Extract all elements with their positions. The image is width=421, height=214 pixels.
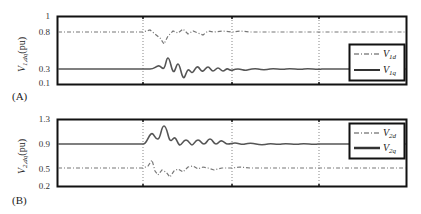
ytick-b-3: 0.5 bbox=[39, 164, 51, 174]
ytick-b-2: 0.9 bbox=[39, 139, 51, 149]
y-axis-label-b: V2,dq(pu) bbox=[16, 139, 29, 174]
ytick-a-2: 0.8 bbox=[39, 27, 51, 37]
legend-b: V2d V2q bbox=[350, 124, 405, 159]
legend-box-a bbox=[350, 45, 405, 81]
ytick-a-3: 0.3 bbox=[39, 64, 51, 74]
legend-a: V1d V1q bbox=[350, 45, 405, 81]
chart-panel-b: 1.3 0.9 0.5 0.2 V2,dq(pu) (B) V2d V2q bbox=[12, 114, 407, 207]
ytick-b-4: 0.2 bbox=[39, 181, 50, 191]
figure: 1 0.8 0.3 0.1 V1,dq(pu) (A) V1d bbox=[0, 0, 421, 214]
ytick-a-4: 0.1 bbox=[39, 78, 50, 88]
chart-panel-a: 1 0.8 0.3 0.1 V1,dq(pu) (A) V1d bbox=[12, 11, 407, 103]
panel-label-b: (B) bbox=[12, 194, 27, 207]
ytick-a-1: 1 bbox=[46, 11, 51, 21]
panel-label-a: (A) bbox=[12, 90, 28, 103]
legend-box-b bbox=[350, 124, 405, 159]
ytick-b-1: 1.3 bbox=[39, 114, 51, 124]
y-axis-label-a: V1,dq(pu) bbox=[16, 37, 29, 72]
